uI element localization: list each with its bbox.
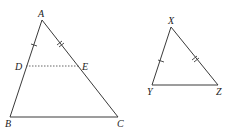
double-tick-mark-xz <box>192 56 199 62</box>
side-xy <box>152 27 171 85</box>
vertex-label-a: A <box>37 8 45 19</box>
vertex-label-c: C <box>117 118 124 129</box>
vertex-label-b: B <box>5 118 11 129</box>
vertex-label-x: X <box>167 15 175 26</box>
tick-mark-xy <box>158 60 164 62</box>
side-xz <box>171 27 218 85</box>
triangle-abc: A D E B C <box>5 8 124 129</box>
side-ac <box>42 20 118 117</box>
point-label-d: D <box>14 61 23 72</box>
vertex-label-z: Z <box>216 86 222 97</box>
triangle-xyz: X Y Z <box>147 15 222 97</box>
diagram-canvas: A D E B C X Y Z <box>0 0 226 130</box>
vertex-label-y: Y <box>147 86 154 97</box>
point-label-e: E <box>81 61 88 72</box>
